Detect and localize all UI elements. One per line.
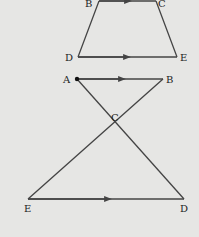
segment-be bbox=[28, 79, 163, 199]
label-b2: B bbox=[166, 74, 173, 85]
point-a-dot bbox=[75, 77, 79, 81]
label-e: E bbox=[180, 52, 187, 63]
geometry-diagram: B C D E A B C E D bbox=[0, 0, 199, 237]
label-d2: D bbox=[180, 203, 188, 214]
label-a: A bbox=[62, 74, 71, 85]
label-d: D bbox=[65, 52, 73, 63]
label-b: B bbox=[85, 0, 92, 9]
crossed-triangles-figure: A B C E D bbox=[24, 74, 188, 214]
segment-ad bbox=[77, 79, 184, 199]
label-c2: C bbox=[111, 112, 119, 123]
label-e2: E bbox=[24, 203, 31, 214]
label-c: C bbox=[158, 0, 166, 9]
trapezoid-figure: B C D E bbox=[65, 0, 187, 63]
segment-ce bbox=[156, 1, 177, 57]
segment-bd bbox=[78, 1, 99, 57]
